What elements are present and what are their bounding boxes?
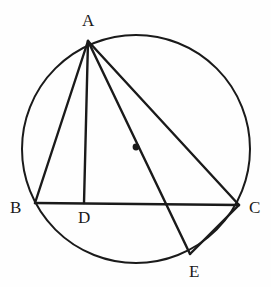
vertex-label-D: D [78,209,90,226]
geometry-figure: A B C D E [0,0,271,287]
vertex-label-A: A [82,12,94,29]
segment-EC [190,205,239,254]
center-dot [133,144,140,151]
segment-AD [84,41,88,203]
segment-AC [88,41,239,205]
geometry-canvas [0,0,271,287]
vertex-label-C: C [249,199,260,216]
vertex-label-E: E [189,263,199,280]
segment-BC [35,203,239,205]
vertex-label-B: B [10,199,21,216]
segment-AB [35,41,88,203]
